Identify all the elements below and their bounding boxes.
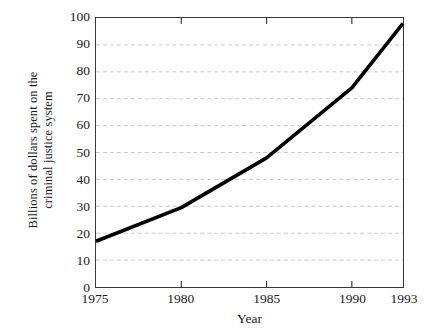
x-tick-label: 1985 — [253, 292, 280, 306]
series-polyline — [96, 23, 403, 241]
x-tick-label: 1980 — [167, 292, 194, 306]
y-tick-label: 90 — [50, 37, 90, 51]
y-tick-label: 40 — [50, 173, 90, 187]
y-tick-label: 70 — [50, 92, 90, 106]
y-tick-label: 50 — [50, 146, 90, 160]
y-axis-title-line-1: Billions of dollars spent on the — [25, 71, 40, 228]
data-series-line — [96, 18, 403, 287]
y-axis-tick-labels: 0102030405060708090100 — [48, 17, 90, 288]
y-tick-label: 10 — [50, 254, 90, 268]
x-axis-title: Year — [95, 311, 404, 326]
y-tick-label: 60 — [50, 119, 90, 133]
x-tick-label: 1975 — [82, 292, 109, 306]
y-tick-label: 20 — [50, 227, 90, 241]
x-tick-label: 1990 — [339, 292, 366, 306]
x-axis-tick-labels: 19751980198519901993 — [95, 292, 404, 312]
y-tick-label: 100 — [50, 10, 90, 24]
y-tick-label: 30 — [50, 200, 90, 214]
x-tick-label: 1993 — [391, 292, 418, 306]
y-tick-label: 80 — [50, 64, 90, 78]
plot-area — [95, 17, 404, 288]
line-chart: Billions of dollars spent on the crimina… — [0, 0, 439, 336]
